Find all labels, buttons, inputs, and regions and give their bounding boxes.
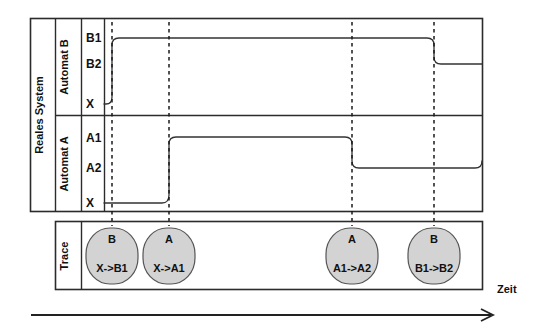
trace-event-2-automat: A [165, 233, 173, 245]
trace-event-3-automat: A [348, 233, 356, 245]
level-label-a-x: X [86, 196, 94, 210]
waveform-automat-a [104, 137, 482, 203]
trace-event-4[interactable]: B B1->B2 [408, 228, 460, 284]
waveform-a-path [104, 137, 482, 203]
event-guide-lines [112, 22, 434, 226]
row-label-automat-a: Automat A [58, 136, 70, 191]
trace-event-3[interactable]: A A1->A2 [326, 228, 378, 284]
waveform-b-path [104, 38, 482, 104]
trace-event-4-automat: B [430, 233, 438, 245]
waveform-automat-b [104, 38, 482, 104]
level-label-b-x: X [86, 97, 94, 111]
timing-diagram: Reales System Automat B Automat A B1 B2 … [0, 0, 544, 333]
level-label-b2: B2 [86, 57, 102, 71]
trace-event-1-automat: B [108, 233, 116, 245]
trace-event-4-transition: B1->B2 [415, 262, 453, 274]
trace-block: Trace B X->B1 A X->A1 A A1->A2 [56, 222, 483, 290]
reales-system-label: Reales System [33, 76, 45, 154]
trace-label: Trace [58, 242, 70, 271]
trace-event-1-transition: X->B1 [96, 262, 128, 274]
diagram-canvas: Reales System Automat B Automat A B1 B2 … [0, 0, 544, 333]
level-label-b1: B1 [86, 31, 102, 45]
row-label-automat-b: Automat B [58, 39, 70, 95]
trace-event-3-transition: A1->A2 [333, 262, 371, 274]
level-label-a1: A1 [86, 131, 102, 145]
trace-event-2[interactable]: A X->A1 [143, 228, 195, 284]
level-label-a2: A2 [86, 161, 102, 175]
trace-event-1[interactable]: B X->B1 [86, 228, 138, 284]
reales-system-block: Reales System Automat B Automat A B1 B2 … [31, 19, 483, 212]
time-axis-label: Zeit [497, 283, 517, 295]
trace-event-2-transition: X->A1 [153, 262, 185, 274]
